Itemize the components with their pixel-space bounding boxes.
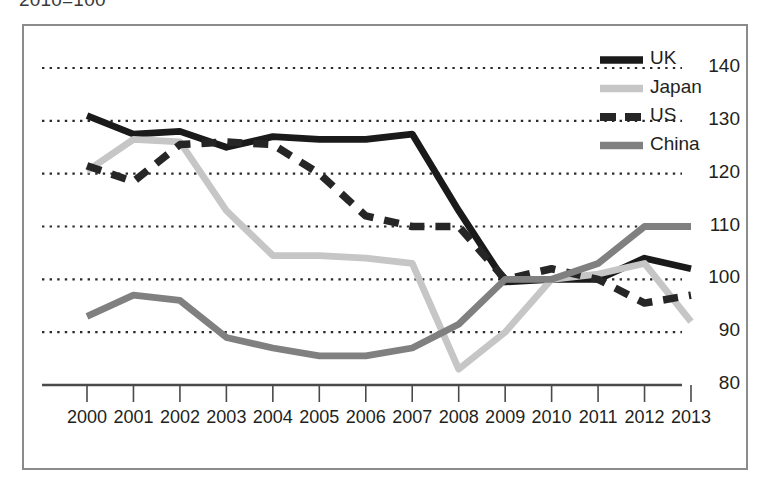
x-axis-label-2005: 2005	[299, 407, 339, 428]
x-axis-label-2010: 2010	[532, 407, 572, 428]
y-axis-label-100: 100	[692, 266, 740, 288]
y-axis-label-140: 140	[692, 55, 740, 77]
x-axis-label-2003: 2003	[206, 407, 246, 428]
chart-frame	[22, 24, 748, 470]
y-axis-label-110: 110	[692, 214, 740, 236]
x-axis-label-2007: 2007	[392, 407, 432, 428]
x-axis-label-2013: 2013	[671, 407, 711, 428]
y-axis-label-120: 120	[692, 161, 740, 183]
x-axis-label-2002: 2002	[160, 407, 200, 428]
x-axis-label-2004: 2004	[253, 407, 293, 428]
x-axis-label-2009: 2009	[485, 407, 525, 428]
legend-label-china: China	[650, 133, 700, 155]
y-axis-label-90: 90	[692, 319, 740, 341]
y-axis-label-130: 130	[692, 108, 740, 130]
x-axis-label-2000: 2000	[67, 407, 107, 428]
legend-label-us: US	[650, 104, 676, 126]
y-axis-label-80: 80	[692, 372, 740, 394]
x-axis-label-2006: 2006	[346, 407, 386, 428]
legend-label-uk: UK	[650, 47, 676, 69]
x-axis-label-2011: 2011	[579, 407, 618, 428]
x-axis-label-2008: 2008	[439, 407, 479, 428]
chart-caption: 2010=100	[19, 0, 106, 11]
x-axis-label-2001: 2001	[113, 407, 153, 428]
legend-label-japan: Japan	[650, 76, 702, 98]
x-axis-label-2012: 2012	[625, 407, 665, 428]
